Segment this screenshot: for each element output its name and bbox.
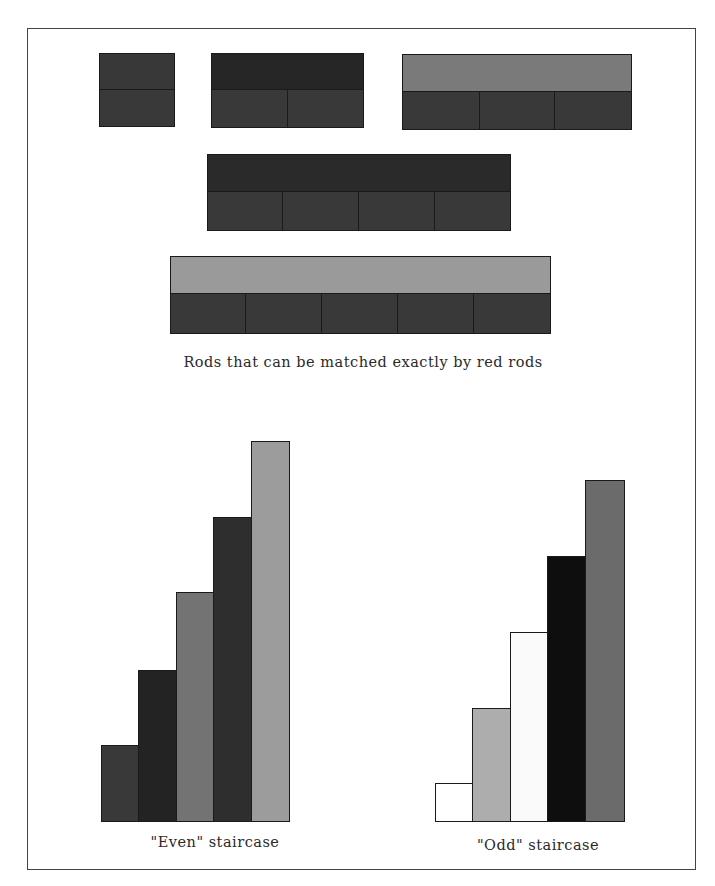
odd-rod-black (547, 556, 587, 822)
red-rod (479, 91, 556, 130)
red-rod (358, 191, 436, 231)
even-rod-brown (213, 517, 253, 822)
red-rod (434, 191, 511, 231)
red-rod (473, 293, 551, 334)
odd-rod-light-green (472, 708, 512, 822)
top-rod-orange (170, 256, 551, 295)
match-group-purple (211, 53, 364, 128)
red-rod (99, 89, 175, 127)
red-rod (287, 89, 364, 128)
top-rod-red (99, 53, 175, 91)
even-rod-dark-green (176, 592, 215, 822)
top-rod-brown (207, 154, 511, 193)
red-rod (245, 293, 323, 334)
match-group-brown (207, 154, 511, 231)
red-rod (554, 91, 632, 130)
red-rod (211, 89, 289, 128)
top-rod-dark-green (402, 54, 632, 93)
match-group-dark-green (402, 54, 632, 130)
matching-caption: Rods that can be matched exactly by red … (173, 354, 553, 370)
even-rod-red (101, 745, 140, 822)
red-rod (321, 293, 399, 334)
red-rod (170, 293, 247, 334)
red-rod (402, 91, 481, 130)
match-group-orange (170, 256, 551, 334)
match-group-red (99, 53, 175, 127)
even-rod-orange (251, 441, 290, 822)
even-staircase-caption: "Even" staircase (120, 834, 310, 850)
red-rod (397, 293, 475, 334)
even-rod-purple (138, 670, 178, 822)
odd-staircase-caption: "Odd" staircase (443, 837, 633, 853)
odd-rod-yellow (510, 632, 549, 822)
odd-rod-blue (585, 480, 625, 822)
red-rod (207, 191, 284, 231)
odd-rod-white (435, 783, 474, 822)
red-rod (282, 191, 360, 231)
top-rod-purple (211, 53, 364, 91)
